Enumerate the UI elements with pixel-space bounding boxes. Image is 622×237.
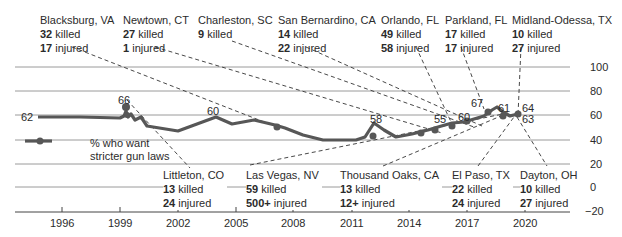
annotation-thousand-oaks: Thousand Oaks, CA 13 killed 12+ injured (340, 168, 442, 210)
value-label: 60 (207, 104, 219, 118)
value-label: 67 (471, 96, 483, 110)
x-tick-label: 2005 (224, 216, 248, 230)
annotation-san-bernardino: San Bernardino, CA 14 killed 22 injured (278, 13, 376, 55)
legend-line2: stricter gun laws (90, 150, 169, 163)
y-tick-label: 60 (590, 108, 602, 122)
y-tick-label: −20 (585, 204, 604, 218)
annotation-las-vegas: Las Vegas, NV 59 killed 500+ injured (246, 168, 322, 210)
legend-swatch (25, 138, 52, 145)
legend-line1: % who want (90, 137, 169, 150)
x-tick-label: 2002 (166, 216, 190, 230)
value-label: 60 (458, 110, 470, 124)
annotation-orlando: Orlando, FL 49 killed 58 injured (381, 13, 439, 55)
y-tick-label: 20 (590, 157, 602, 171)
value-label: 61 (498, 101, 510, 115)
x-tick-label: 2020 (513, 216, 537, 230)
series-stricter-gun-laws (38, 103, 522, 140)
x-tick-label: 1996 (50, 216, 74, 230)
annotation-el-paso: El Paso, TX 22 killed 24 injured (452, 168, 513, 210)
value-label: 55 (434, 112, 446, 126)
annotation-charleston: Charleston, SC 9 killed (198, 13, 273, 41)
x-tick-label: 2014 (397, 216, 421, 230)
legend: % who want stricter gun laws (90, 137, 139, 163)
annotation-newtown: Newtown, CT 27 killed 1 injured (123, 13, 189, 55)
annotation-parkland: Parkland, FL 17 killed 17 injured (445, 13, 507, 55)
value-label: 63 (522, 112, 534, 126)
value-label: 58 (370, 112, 382, 126)
value-label: 66 (118, 93, 130, 107)
annotation-dayton: Dayton, OH 10 killed 27 injured (520, 168, 580, 210)
y-tick-label: 100 (590, 60, 608, 74)
value-label: 62 (21, 110, 33, 124)
annotation-blacksburg: Blacksburg, VA 32 killed 17 injured (40, 13, 114, 55)
annotation-littleton: Littleton, CO 13 killed 24 injured (163, 168, 227, 210)
annotation-midland-odessa: Midland-Odessa, TX 10 killed 27 injured (512, 13, 612, 55)
y-tick-label: 0 (590, 180, 596, 194)
y-tick-label: 80 (590, 84, 602, 98)
x-tick-label: 2008 (281, 216, 305, 230)
x-tick-label: 1999 (108, 216, 132, 230)
x-tick-label: 2011 (340, 216, 364, 230)
x-tick-label: 2017 (455, 216, 479, 230)
y-tick-label: 40 (590, 133, 602, 147)
shootings-gun-laws-chart: 62 66 60 58 55 60 67 61 64 63 % who want… (0, 0, 622, 237)
